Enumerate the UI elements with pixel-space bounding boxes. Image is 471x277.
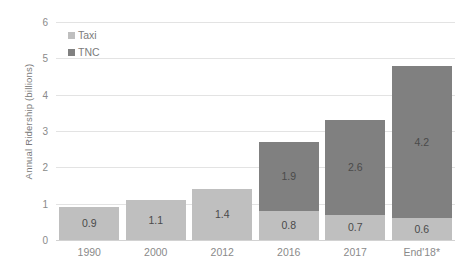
bar-value-label: 0.7 [348,222,363,233]
bar-segment-taxi[interactable]: 0.9 [59,207,119,240]
legend-item-taxi[interactable]: Taxi [68,29,100,41]
legend-swatch-icon [68,49,75,56]
bar-group[interactable]: 0.64.2 [392,22,452,240]
x-tick-label: 2017 [322,246,389,258]
bar-value-label: 4.2 [414,137,429,148]
y-axis-ticks: 0123456 [12,22,48,240]
y-tick-label: 5 [14,53,48,64]
bar-group[interactable]: 1.1 [126,22,186,240]
y-tick-label: 2 [14,162,48,173]
legend-label: Taxi [78,30,97,41]
bar-value-label: 0.9 [82,218,97,229]
x-tick-label: 2012 [189,246,256,258]
bar-group[interactable]: 0.81.9 [259,22,319,240]
bar-value-label: 2.6 [348,162,363,173]
bars-layer: 0.91.11.40.81.90.72.60.64.2 [56,22,455,240]
legend-label: TNC [78,47,100,58]
bar-group[interactable]: 0.72.6 [325,22,385,240]
y-tick-label: 6 [14,17,48,28]
x-tick-label: 2016 [256,246,323,258]
x-tick-label: 2000 [123,246,190,258]
bar-segment-tnc[interactable]: 4.2 [392,66,452,219]
bar-value-label: 1.1 [148,215,163,226]
bar-group[interactable]: 1.4 [192,22,252,240]
plot-area: 0.91.11.40.81.90.72.60.64.2 [56,22,455,240]
bar-value-label: 0.8 [281,220,296,231]
x-tick-label: End'18* [389,246,456,258]
x-axis-ticks: 19902000201220162017End'18* [56,246,455,266]
legend-swatch-icon [68,32,75,39]
y-tick-label: 4 [14,89,48,100]
chart-legend: TaxiTNC [68,29,100,58]
gridline-0 [56,240,455,241]
bar-value-label: 1.4 [215,209,230,220]
stacked-bar-chart: Annual Ridership (billions) 0123456 0.91… [0,0,471,277]
bar-value-label: 0.6 [414,224,429,235]
y-tick-label: 0 [14,235,48,246]
bar-segment-taxi[interactable]: 0.7 [325,215,385,240]
y-tick-label: 3 [14,126,48,137]
bar-segment-taxi[interactable]: 1.1 [126,200,186,240]
x-tick-label: 1990 [56,246,123,258]
bar-segment-taxi[interactable]: 1.4 [192,189,252,240]
bar-segment-taxi[interactable]: 0.8 [259,211,319,240]
legend-item-tnc[interactable]: TNC [68,46,100,58]
bar-segment-tnc[interactable]: 2.6 [325,120,385,214]
bar-value-label: 1.9 [281,171,296,182]
y-tick-label: 1 [14,198,48,209]
bar-segment-tnc[interactable]: 1.9 [259,142,319,211]
bar-segment-taxi[interactable]: 0.6 [392,218,452,240]
